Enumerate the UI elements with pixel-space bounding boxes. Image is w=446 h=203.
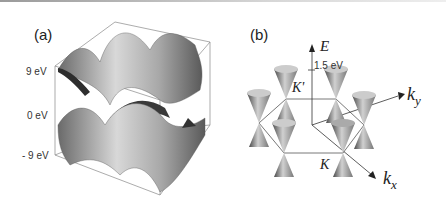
tick-mid: 0 eV <box>27 110 48 121</box>
figure-graphics <box>0 0 446 203</box>
dirac-cones <box>247 65 376 177</box>
upper-band-surface <box>58 33 202 105</box>
tick-top: 9 eV <box>26 66 47 77</box>
ky-axis-label: ky <box>407 84 421 109</box>
kx-axis-label: kx <box>383 168 397 193</box>
panel-b-label: (b) <box>250 26 268 43</box>
lower-band-surface <box>58 104 205 192</box>
k-label: K <box>320 157 329 173</box>
k-prime-label: K' <box>292 80 304 96</box>
energy-scale-label: 1.5 eV <box>314 60 343 71</box>
panel-a-label: (a) <box>34 26 52 43</box>
tick-bottom: - 9 eV <box>22 150 49 161</box>
energy-axis-label: E <box>320 38 329 55</box>
